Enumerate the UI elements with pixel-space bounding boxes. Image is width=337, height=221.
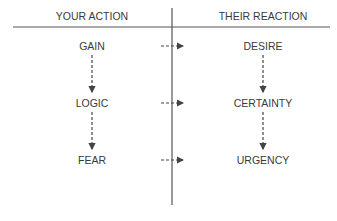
reaction-certainty: CERTAINTY <box>234 97 293 109</box>
reaction-urgency: URGENCY <box>237 154 290 166</box>
header-your-action: YOUR ACTION <box>56 10 128 22</box>
action-gain: GAIN <box>79 40 105 52</box>
action-fear: FEAR <box>78 154 106 166</box>
action-logic: LOGIC <box>76 97 109 109</box>
header-their-reaction: THEIR REACTION <box>219 10 308 22</box>
reaction-desire: DESIRE <box>243 40 282 52</box>
diagram-lines <box>0 0 337 221</box>
